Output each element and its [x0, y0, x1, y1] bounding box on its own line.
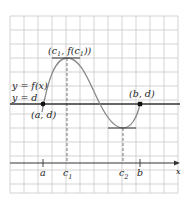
tick-label-a: a — [40, 167, 46, 178]
tick-label-c1: c1 — [63, 167, 72, 181]
graph-diagram: x a c1 c2 b (c1, f(c1)) y = f(x) y = d (… — [0, 0, 183, 198]
curve-label: y = f(x) — [11, 80, 48, 91]
curve-f — [42, 58, 140, 128]
line-d-label: y = d — [11, 92, 37, 103]
x-axis-arrow-icon — [174, 161, 180, 166]
point-b-label: (b, d) — [129, 88, 155, 99]
tick-label-b: b — [137, 167, 143, 178]
point-a-label: (a, d) — [31, 109, 56, 120]
point-b-d — [138, 102, 142, 106]
tick-label-c2: c2 — [119, 167, 128, 181]
x-axis-label: x — [176, 167, 181, 176]
max-point-label: (c1, f(c1)) — [48, 45, 92, 58]
point-a-d — [41, 102, 46, 107]
